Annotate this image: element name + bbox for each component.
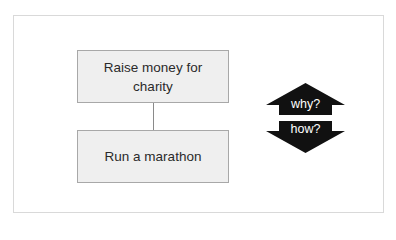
goal-box-label: Run a marathon xyxy=(105,147,202,166)
connector-line xyxy=(153,103,154,130)
why-how-arrows: why? how? xyxy=(266,83,345,153)
up-down-arrow-icon xyxy=(266,83,345,153)
how-label: how? xyxy=(266,122,345,136)
goal-box-label: Raise money for charity xyxy=(84,58,222,96)
goal-box-raise-money: Raise money for charity xyxy=(77,50,229,103)
goal-box-run-marathon: Run a marathon xyxy=(77,130,229,183)
why-label: why? xyxy=(266,97,345,111)
